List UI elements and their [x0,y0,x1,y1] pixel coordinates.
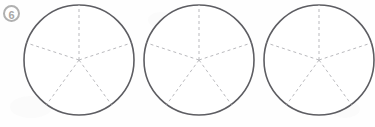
fraction-circle-2[interactable] [143,4,255,116]
fraction-circle-3[interactable] [263,4,375,116]
fraction-circle-1[interactable] [23,4,135,116]
